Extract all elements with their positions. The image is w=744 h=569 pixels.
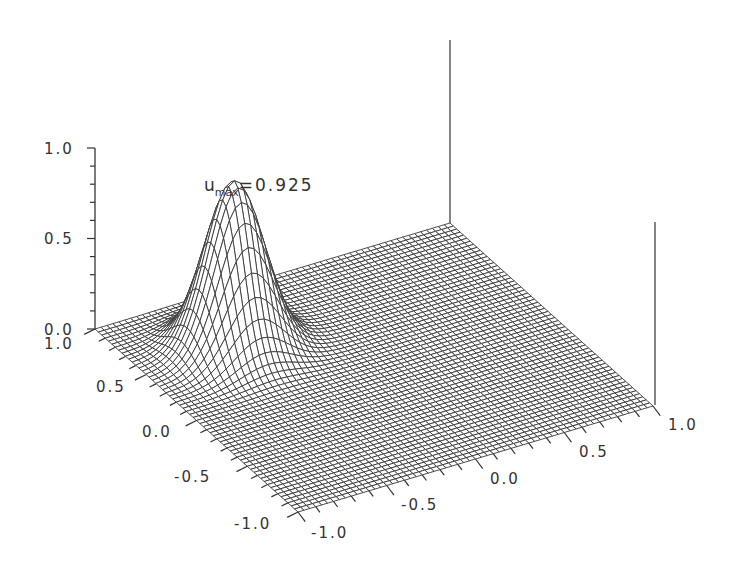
surface-plot: 0.00.51.0-1.0-0.50.00.51.0-1.0-0.50.00.5… bbox=[0, 0, 744, 569]
surface-mesh bbox=[95, 181, 653, 512]
umax-annotation: umax=0.925 bbox=[204, 175, 314, 199]
x-tick-label: 1.0 bbox=[668, 416, 698, 434]
y-tick-label: 1.0 bbox=[44, 335, 74, 353]
y-tick-label: 0.0 bbox=[142, 423, 172, 441]
x-tick-label: 0.5 bbox=[579, 443, 609, 461]
y-tick-label: -0.5 bbox=[174, 468, 211, 486]
z-tick-label: 1.0 bbox=[44, 140, 74, 158]
z-tick-label: 0.5 bbox=[44, 230, 74, 248]
y-tick-label: 0.5 bbox=[96, 378, 126, 396]
y-tick-label: -1.0 bbox=[234, 515, 271, 533]
x-tick-label: 0.0 bbox=[490, 470, 520, 488]
x-tick-label: -0.5 bbox=[401, 496, 438, 514]
x-tick-label: -1.0 bbox=[311, 524, 348, 542]
